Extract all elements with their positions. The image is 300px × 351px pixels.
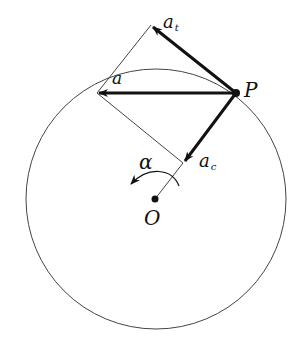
label-alpha: α (139, 152, 153, 172)
label-a: a (112, 70, 122, 87)
point-p (232, 89, 240, 97)
center-o (152, 196, 159, 203)
label-at: at (163, 13, 179, 31)
vector-at (153, 27, 236, 93)
label-p: P (244, 80, 257, 100)
diagram-canvas (0, 0, 300, 351)
vector-ac (185, 93, 236, 161)
diagram: at a P ac α O (0, 0, 300, 351)
radius-line (155, 163, 183, 199)
label-o: O (144, 208, 160, 228)
construction-line (97, 25, 151, 93)
label-ac: ac (199, 152, 216, 170)
